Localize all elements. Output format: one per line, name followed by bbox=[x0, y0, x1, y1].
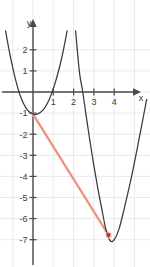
x-tick-label: 1 bbox=[51, 97, 56, 107]
y-tick-label: -1 bbox=[19, 108, 27, 118]
y-axis-label: y bbox=[27, 18, 32, 28]
plot-markers bbox=[105, 231, 112, 238]
x-axis-label: x bbox=[139, 93, 144, 103]
coordinate-plane-figure: 123421-1-2-3-4-5-6-7 x y bbox=[0, 0, 150, 267]
marker-tangency-point bbox=[106, 233, 110, 237]
x-tick-label: 4 bbox=[112, 97, 117, 107]
y-tick-label: -3 bbox=[19, 151, 27, 161]
y-tick-label: 2 bbox=[22, 45, 27, 55]
y-tick-label: -7 bbox=[19, 235, 27, 245]
x-tick-label: 3 bbox=[91, 97, 96, 107]
graph-svg: 123421-1-2-3-4-5-6-7 x y bbox=[0, 0, 150, 267]
y-tick-label: -2 bbox=[19, 130, 27, 140]
y-tick-label: -6 bbox=[19, 214, 27, 224]
x-tick-label: 2 bbox=[71, 97, 76, 107]
y-tick-label: 1 bbox=[22, 66, 27, 76]
y-tick-label: -4 bbox=[19, 172, 27, 182]
y-tick-label: -5 bbox=[19, 193, 27, 203]
